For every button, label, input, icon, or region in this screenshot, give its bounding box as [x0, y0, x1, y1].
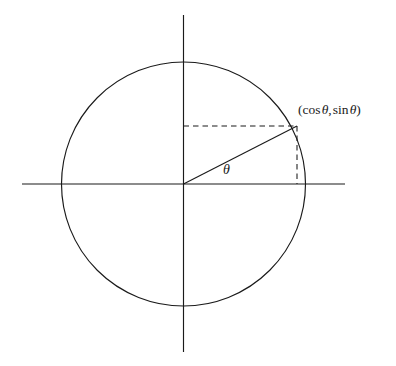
figure-canvas [0, 0, 396, 366]
angle-theta-label: θ [223, 163, 230, 177]
coordinate-comma: , [328, 102, 331, 117]
radius-line [184, 126, 298, 184]
close-paren: ) [356, 102, 361, 117]
unit-circle-figure: (cos θ, sin θ) θ [0, 0, 396, 366]
sin-function-name: sin [333, 102, 349, 117]
point-coordinates-label: (cos θ, sin θ) [298, 103, 361, 117]
cos-function-name: cos [303, 102, 321, 117]
